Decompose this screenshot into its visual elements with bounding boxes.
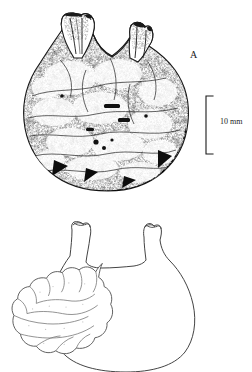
figure-panel-a: A 10 mm bbox=[0, 0, 252, 200]
specimen-body-a bbox=[19, 10, 200, 200]
specimen-outline-b bbox=[0, 200, 252, 372]
panel-label-a: A bbox=[190, 50, 198, 60]
scale-bar-group: 10 mm bbox=[204, 94, 250, 156]
figure-root: A 10 mm bbox=[0, 0, 252, 372]
scale-bar-label: 10 mm bbox=[220, 118, 242, 126]
figure-panel-b: B bbox=[0, 200, 252, 372]
body-texture-a bbox=[19, 10, 200, 200]
